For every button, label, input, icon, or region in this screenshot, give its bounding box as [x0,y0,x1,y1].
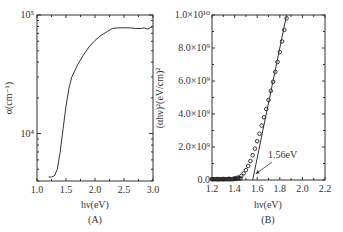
y-tick-label: 10⁵ [21,9,35,20]
panel-b-label: (B) [261,214,274,226]
x-tick-label: 3.0 [147,184,160,195]
panel-a-x-label: hν(eV) [81,199,109,211]
data-point [242,172,246,176]
panel-a-x-ticks: 1.01.52.02.53.0 [31,15,160,195]
y-tick-label: 0.0 [198,174,211,185]
bandgap-annotation: 1.56eV [256,149,298,174]
y-tick-label: 6.0×10⁹ [178,75,210,86]
x-tick-label: 1.0 [31,184,44,195]
y-tick-label: 4.0×10⁹ [178,108,210,119]
panel-a: 1.01.52.02.53.0 10⁴10⁵ hν(eV) (A) α(cm⁻¹… [3,9,159,226]
x-tick-label: 2.5 [118,184,131,195]
panel-a-y-label: α(cm⁻¹) [3,82,15,114]
y-tick-label: 10⁴ [21,128,35,139]
figure: 1.01.52.02.53.0 10⁴10⁵ hν(eV) (A) α(cm⁻¹… [0,0,343,232]
data-point [251,153,255,157]
x-tick-label: 1.4 [228,183,241,194]
panel-a-label: (A) [88,214,102,226]
panel-a-y-ticks: 10⁴10⁵ [21,9,154,181]
panel-b: 1.21.41.61.82.02.2 0.02.0×10⁹4.0×10⁹6.0×… [154,9,331,226]
bandgap-value: 1.56eV [268,149,298,160]
y-tick-label: 1.0×10¹⁰ [175,9,210,20]
data-point [258,132,262,136]
data-point [253,147,257,151]
panel-b-y-label: (αhν)²(eV/cm)² [154,68,166,129]
x-tick-label: 2.2 [319,183,332,194]
x-tick-label: 1.8 [274,183,287,194]
x-tick-label: 2.0 [89,184,102,195]
data-point [249,159,253,163]
data-point [260,124,264,128]
absorption-curve [49,27,153,178]
y-tick-label: 2.0×10⁹ [178,141,210,152]
x-tick-label: 2.0 [296,183,309,194]
x-tick-label: 1.5 [60,184,73,195]
y-tick-label: 8.0×10⁹ [178,42,210,53]
data-point [246,164,250,168]
x-tick-label: 1.6 [251,183,264,194]
data-point [244,168,248,172]
data-point [255,139,259,143]
panel-b-x-label: hν(eV) [254,199,282,211]
panel-b-y-ticks: 0.02.0×10⁹4.0×10⁹6.0×10⁹8.0×10⁹1.0×10¹⁰ [175,9,325,185]
